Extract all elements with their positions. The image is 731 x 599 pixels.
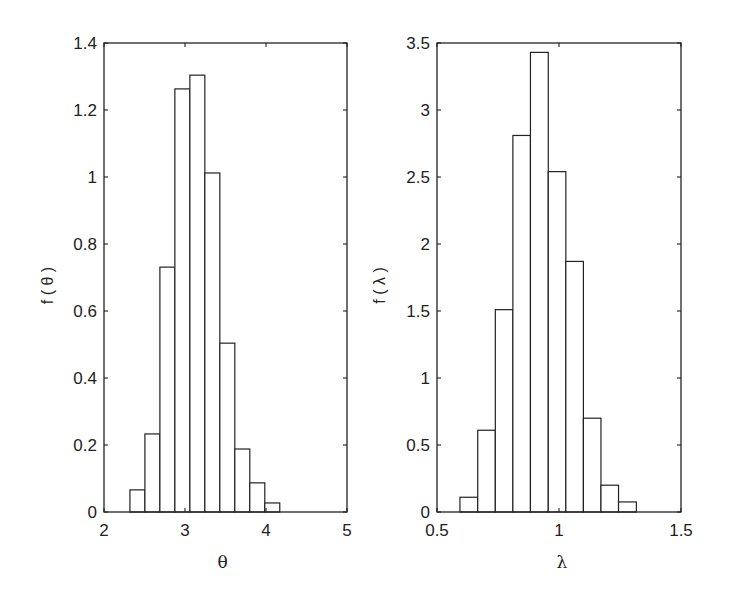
theta-histogram-panel: 2345 00.20.40.60.811.21.4 θ f ( θ ) bbox=[39, 34, 352, 572]
y-tick-label: 3 bbox=[421, 101, 430, 120]
histogram-bar bbox=[548, 172, 566, 512]
y-tick-label: 0.4 bbox=[73, 369, 97, 388]
y-tick-label: 0.5 bbox=[406, 436, 430, 455]
x-tick-label: 1 bbox=[554, 521, 563, 540]
y-tick-label: 1 bbox=[421, 369, 430, 388]
y-tick-label: 0.6 bbox=[73, 302, 97, 321]
y-tick-label: 0 bbox=[421, 503, 430, 522]
histogram-bar bbox=[130, 490, 145, 512]
theta-y-axis-label: f ( θ ) bbox=[39, 267, 56, 304]
lambda-y-tick-labels: 00.511.522.533.5 bbox=[406, 34, 430, 522]
histogram-bar bbox=[460, 497, 478, 512]
y-tick-label: 0 bbox=[88, 503, 97, 522]
histogram-bar bbox=[235, 449, 250, 512]
x-tick-label: 3 bbox=[180, 521, 189, 540]
histogram-bar bbox=[530, 52, 548, 512]
x-tick-label: 0.5 bbox=[425, 521, 449, 540]
y-tick-label: 0.2 bbox=[73, 436, 97, 455]
histogram-bar bbox=[495, 310, 513, 512]
histogram-bar bbox=[160, 267, 175, 512]
histogram-bar bbox=[205, 173, 220, 512]
y-tick-label: 2.5 bbox=[406, 168, 430, 187]
theta-y-tick-labels: 00.20.40.60.811.21.4 bbox=[73, 34, 97, 522]
y-tick-label: 1.2 bbox=[73, 101, 97, 120]
x-tick-label: 2 bbox=[99, 521, 108, 540]
lambda-histogram-bars bbox=[460, 52, 636, 512]
histogram-bar bbox=[145, 434, 160, 512]
lambda-histogram-panel: 0.511.5 00.511.522.533.5 λ f ( λ ) bbox=[371, 34, 693, 572]
histogram-bar bbox=[175, 89, 190, 512]
histogram-bar bbox=[190, 75, 205, 512]
x-tick-label: 4 bbox=[261, 521, 270, 540]
lambda-x-tick-labels: 0.511.5 bbox=[425, 521, 693, 540]
histogram-bar bbox=[619, 502, 637, 512]
y-tick-label: 1 bbox=[88, 168, 97, 187]
histogram-bar bbox=[566, 261, 584, 512]
y-tick-label: 3.5 bbox=[406, 34, 430, 53]
theta-histogram-bars bbox=[130, 75, 280, 512]
y-tick-label: 1.4 bbox=[73, 34, 97, 53]
y-tick-label: 0.8 bbox=[73, 235, 97, 254]
histogram-bar bbox=[250, 483, 265, 512]
x-tick-label: 1.5 bbox=[669, 521, 693, 540]
histogram-bar bbox=[583, 418, 601, 512]
y-tick-label: 2 bbox=[421, 235, 430, 254]
lambda-y-axis-label: f ( λ ) bbox=[371, 267, 388, 303]
lambda-x-axis-label: λ bbox=[557, 552, 568, 572]
figure: 2345 00.20.40.60.811.21.4 θ f ( θ ) 0.51… bbox=[0, 0, 731, 599]
histogram-bar bbox=[513, 135, 531, 512]
histogram-bar bbox=[601, 485, 619, 512]
histogram-bar bbox=[265, 503, 280, 512]
histogram-bar bbox=[478, 430, 496, 512]
theta-x-axis-label: θ bbox=[217, 552, 227, 572]
x-tick-label: 5 bbox=[342, 521, 351, 540]
theta-x-tick-labels: 2345 bbox=[99, 521, 351, 540]
histogram-bar bbox=[220, 343, 235, 512]
y-tick-label: 1.5 bbox=[406, 302, 430, 321]
